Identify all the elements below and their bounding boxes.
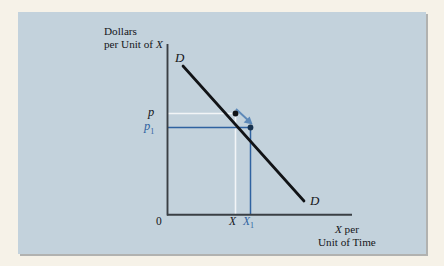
x-axis-label-line2: Unit of Time <box>318 236 376 249</box>
x-axis-label-variable: X <box>335 223 342 235</box>
demand-curve-label-top: D <box>175 50 184 65</box>
y-axis-label: Dollars per Unit of X <box>104 25 163 51</box>
y-axis-label-line2-prefix: per Unit of <box>104 38 156 50</box>
price-label-p1: p1 <box>144 119 154 136</box>
figure-panel <box>18 12 426 254</box>
y-axis-label-line1: Dollars <box>104 25 137 37</box>
x-axis-label-suffix: per <box>342 223 359 235</box>
demand-curve-label-bottom: D <box>310 193 319 208</box>
y-axis-label-line2: per Unit of X <box>104 38 163 51</box>
x-axis-label-line1: X per <box>335 223 359 235</box>
quantity-label-x1-subscript: 1 <box>250 221 254 230</box>
x-axis-label: X per Unit of Time <box>318 223 376 249</box>
y-axis-label-variable: X <box>156 38 163 50</box>
quantity-label-x1-base: X <box>243 215 250 227</box>
quantity-label-x1: X1 <box>243 215 254 231</box>
price-label-p: p <box>148 105 154 120</box>
origin-label: 0 <box>156 215 162 229</box>
price-label-p1-subscript: 1 <box>150 127 154 136</box>
quantity-label-x: X <box>229 215 236 229</box>
